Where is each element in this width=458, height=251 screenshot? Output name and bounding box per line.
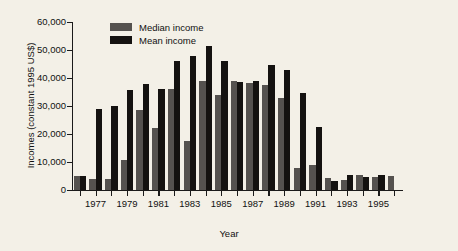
x-axis-tick — [394, 191, 395, 196]
legend-label-mean: Mean income — [139, 35, 196, 46]
bar-mean — [96, 109, 102, 190]
bar-mean — [221, 61, 227, 190]
x-axis-tick — [206, 191, 207, 196]
legend-swatch-mean-icon — [110, 36, 132, 44]
x-axis-tick — [284, 191, 285, 196]
x-axis-tick — [221, 191, 222, 196]
x-axis-tick — [253, 191, 254, 196]
legend-swatch-median-icon — [110, 23, 132, 31]
x-axis-tick — [268, 191, 269, 196]
x-axis-tick — [174, 191, 175, 196]
bar-mean — [206, 46, 212, 190]
bar-mean — [331, 181, 337, 190]
legend-label-median: Median income — [139, 22, 203, 33]
y-axis-tick-label: 40,000 — [0, 72, 66, 83]
bar-mean — [158, 89, 164, 190]
x-axis-tick — [143, 191, 144, 196]
x-axis-tick — [237, 191, 238, 196]
x-axis-tick — [127, 191, 128, 196]
legend-item-median: Median income — [110, 21, 203, 33]
x-axis-tick — [378, 191, 379, 196]
bar-mean — [378, 175, 384, 190]
bar-median — [388, 176, 394, 190]
bar-mean — [237, 82, 243, 190]
y-axis-tick-label: 60,000 — [0, 16, 66, 27]
bar-mean — [284, 70, 290, 190]
y-axis-tick-label: 20,000 — [0, 128, 66, 139]
bar-mean — [300, 93, 306, 190]
x-axis-tick — [80, 191, 81, 196]
x-axis-tick-label: 1995 — [358, 198, 398, 209]
chart-figure: Incomes (constant 1995 US$) 60,00050,000… — [0, 0, 458, 251]
y-axis-tick-label: 0 — [0, 184, 66, 195]
bar-mean — [143, 84, 149, 190]
bar-mean — [268, 65, 274, 190]
bar-mean — [190, 56, 196, 190]
x-axis-tick — [96, 191, 97, 196]
chart-legend: Median income Mean income — [110, 21, 203, 47]
y-axis-tick-label: 50,000 — [0, 44, 66, 55]
bar-mean — [174, 61, 180, 190]
x-axis-tick — [331, 191, 332, 196]
x-axis-title: Year — [0, 228, 458, 239]
bar-mean — [363, 177, 369, 190]
bar-mean — [111, 106, 117, 190]
x-axis-tick — [316, 191, 317, 196]
y-axis-tick-label: 30,000 — [0, 100, 66, 111]
bar-mean — [127, 90, 133, 190]
bar-mean — [80, 176, 86, 190]
x-axis-tick — [190, 191, 191, 196]
y-axis-tick-label: 10,000 — [0, 156, 66, 167]
x-axis-tick — [158, 191, 159, 196]
bars-layer — [72, 22, 402, 190]
bar-mean — [316, 127, 322, 190]
x-axis-tick — [363, 191, 364, 196]
x-axis-tick — [300, 191, 301, 196]
bar-mean — [253, 81, 259, 190]
x-axis-tick — [111, 191, 112, 196]
legend-item-mean: Mean income — [110, 34, 203, 46]
bar-mean — [347, 175, 353, 190]
x-axis-tick — [347, 191, 348, 196]
